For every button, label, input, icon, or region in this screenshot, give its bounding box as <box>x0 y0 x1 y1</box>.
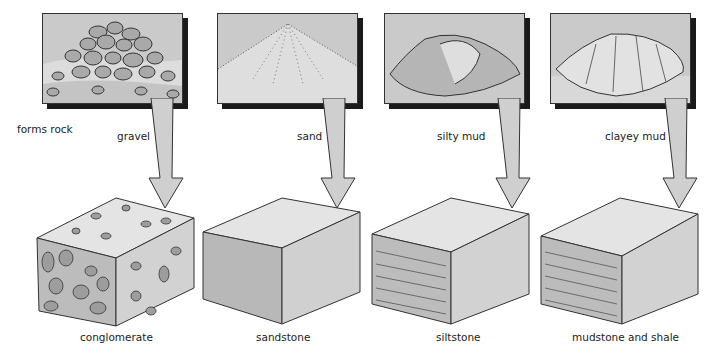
sand-panel <box>217 13 358 104</box>
rock-label-mudstone-shale: mudstone and shale <box>572 331 679 343</box>
sediment-label-silty-mud: silty mud <box>437 130 486 142</box>
clayey-mud-pile-image <box>551 14 690 103</box>
sandstone-block <box>202 196 362 328</box>
gravel-panel <box>42 13 183 104</box>
rock-label-conglomerate: conglomerate <box>80 331 153 343</box>
down-arrow-icon <box>320 98 358 210</box>
clayey-mud-panel <box>550 13 691 104</box>
down-arrow-icon <box>148 98 186 210</box>
sediment-label-gravel: gravel <box>117 130 150 142</box>
sediment-label-sand: sand <box>297 130 322 142</box>
rock-label-sandstone: sandstone <box>256 331 310 343</box>
conglomerate-block <box>36 196 196 328</box>
siltstone-block <box>371 196 531 328</box>
mudstone-shale-block <box>540 196 705 328</box>
sand-pile-image <box>218 14 357 103</box>
down-arrow-icon <box>662 98 700 210</box>
silty-mud-pile-image <box>385 14 524 103</box>
down-arrow-icon <box>495 98 533 210</box>
sediment-label-clayey-mud: clayey mud <box>605 130 666 142</box>
forms-rock-label: forms rock <box>17 123 73 135</box>
silty-mud-panel <box>384 13 525 104</box>
gravel-pile-image <box>43 14 182 103</box>
rock-label-siltstone: siltstone <box>436 331 481 343</box>
